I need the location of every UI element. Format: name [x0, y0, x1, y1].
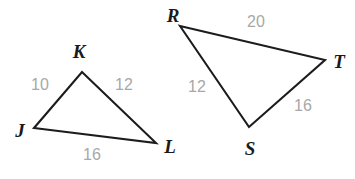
side-label-st: 16 [294, 98, 312, 114]
geometry-figure: J K L 10 12 16 R T S 20 12 16 [0, 0, 355, 179]
side-label-kl: 12 [115, 77, 133, 93]
side-label-jl: 16 [83, 147, 101, 163]
side-label-rt: 20 [247, 14, 265, 30]
vertex-label-t: T [333, 52, 345, 71]
vertex-label-r: R [167, 6, 180, 25]
side-label-rs: 12 [188, 79, 206, 95]
triangles-canvas [0, 0, 355, 179]
side-label-jk: 10 [31, 77, 49, 93]
vertex-label-l: L [164, 137, 176, 156]
vertex-label-k: K [73, 42, 86, 61]
vertex-label-j: J [15, 121, 25, 140]
vertex-label-s: S [245, 139, 256, 158]
